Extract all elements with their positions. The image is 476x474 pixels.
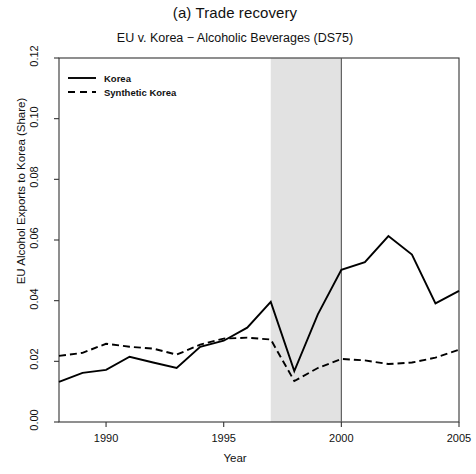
axes — [54, 58, 459, 427]
series-line-synthetic-korea — [59, 338, 459, 381]
legend-label: Korea — [104, 73, 132, 84]
legend-label: Synthetic Korea — [104, 87, 177, 98]
dispute-period-band — [271, 58, 342, 422]
series-line-korea — [59, 236, 459, 382]
legend: KoreaSynthetic Korea — [68, 73, 177, 98]
